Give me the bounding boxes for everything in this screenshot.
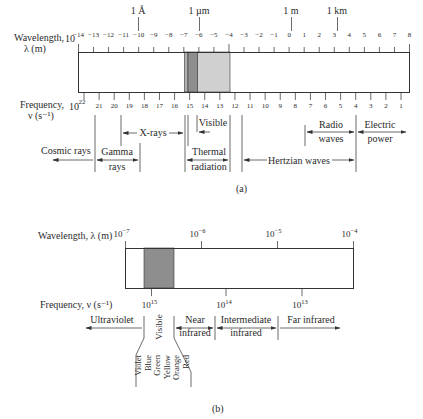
frequency-exponent: 15 <box>186 102 194 110</box>
label-cosmic-rays: Cosmic rays <box>41 145 91 156</box>
b-label-intermediate-1: Intermediate <box>221 314 272 325</box>
label-visible: Visible <box>199 117 228 128</box>
b-label-far-infrared: Far infrared <box>287 314 334 325</box>
wavelength-ticks <box>79 44 410 52</box>
b-wavelength-tick-label: 10−7 <box>114 227 131 239</box>
label-x-rays: X-rays <box>139 127 166 138</box>
b-wavelength-tick-label: 10−6 <box>190 227 207 239</box>
wavelength-axis-label: Wavelength, <box>14 32 64 43</box>
wavelength-exponent: −10 <box>133 31 144 39</box>
frequency-tick-labels: 22212019181716151413121110987654321 <box>79 98 404 110</box>
frequency-exponent: 10 <box>262 102 270 110</box>
infrared-band <box>198 52 231 92</box>
frequency-exponent: 18 <box>141 102 149 110</box>
wavelength-exponent: −3 <box>240 31 248 39</box>
wavelength-exponent: 3 <box>333 31 337 39</box>
b-label-ultraviolet: Ultraviolet <box>90 314 134 325</box>
frequency-exponent: 22 <box>79 98 87 106</box>
label-electric-1: Electric <box>364 119 396 130</box>
caption-a: (a) <box>236 183 247 195</box>
frequency-exponent: 13 <box>216 102 224 110</box>
frequency-exponent: 19 <box>126 102 134 110</box>
label-gamma-2: rays <box>109 161 126 172</box>
landmark-labels: 1 Å 1 µm 1 m 1 km <box>131 5 348 31</box>
b-visible-band <box>144 248 174 288</box>
b-wavelength-label: Wavelength, λ (m) <box>38 230 112 242</box>
frequency-ticks <box>84 93 401 100</box>
wavelength-exponent: −9 <box>150 31 158 39</box>
frequency-exponent: 9 <box>278 102 282 110</box>
label-electric-2: power <box>368 133 394 144</box>
frequency-exponent: 7 <box>309 102 313 110</box>
wavelength-exponent: −11 <box>118 31 129 39</box>
visible-color-orange: Orange <box>171 355 181 380</box>
wavelength-exponent: −6 <box>195 31 203 39</box>
frequency-exponent: 11 <box>247 102 254 110</box>
b-frequency-tick-label: 1013 <box>292 298 308 310</box>
label-radio-1: Radio <box>319 119 343 130</box>
wavelength-exponent: 5 <box>363 31 367 39</box>
frequency-exponent: 8 <box>294 102 298 110</box>
frequency-exponent: 3 <box>369 102 373 110</box>
wavelength-exponent: −5 <box>210 31 218 39</box>
frequency-axis-label: Frequency, <box>20 99 64 110</box>
wavelength-exponent: 1 <box>302 31 306 39</box>
frequency-exponent: 5 <box>339 102 343 110</box>
landmark-angstrom: 1 Å <box>131 5 147 16</box>
visible-color-green: Green <box>152 354 162 376</box>
electromagnetic-spectrum-diagram: Wavelength, λ (m) Frequency, ν (s⁻¹) 1 Å… <box>0 0 423 419</box>
frequency-axis-unit: ν (s⁻¹) <box>28 110 54 122</box>
landmark-meter: 1 m <box>283 5 299 16</box>
label-thermal-2: radiation <box>191 161 227 172</box>
wavelength-exponent: −14 <box>73 31 84 39</box>
wavelength-axis-unit: λ (m) <box>24 43 46 55</box>
visible-color-blue: Blue <box>143 355 153 371</box>
caption-b: (b) <box>212 403 224 415</box>
frequency-exponent: 12 <box>231 102 239 110</box>
b-label-near-1: Near <box>185 314 205 325</box>
frequency-exponent: 1 <box>399 102 403 110</box>
visible-color-list: VioletBlueGreenYellowOrangeRed <box>133 354 191 380</box>
frequency-exponent: 14 <box>201 102 209 110</box>
label-gamma-1: Gamma <box>101 146 133 157</box>
label-hertzian: Hertzian waves <box>268 155 330 166</box>
wavelength-exponent: −8 <box>165 31 173 39</box>
b-frequency-tick-label: 1015 <box>142 298 158 310</box>
b-wavelength-ticks: 10−710−610−510−4 <box>114 227 359 248</box>
visible-band <box>188 52 198 92</box>
b-wavelength-tick-label: 10−5 <box>266 227 282 239</box>
label-thermal-1: Thermal <box>192 146 226 157</box>
b-label-intermediate-2: infrared <box>230 327 262 338</box>
wavelength-exponent: 8 <box>408 31 412 39</box>
part-b: Wavelength, λ (m) 10−710−610−510−4 Frequ… <box>38 227 358 415</box>
spectrum-bar <box>79 53 410 93</box>
frequency-exponent: 6 <box>324 102 328 110</box>
wavelength-exponent: −1 <box>270 31 278 39</box>
wavelength-tick-labels: −14−13−12−11−10−9−8−7−6−5−4−3−2−10123456… <box>73 31 412 39</box>
b-wavelength-tick-label: 10−4 <box>342 227 359 239</box>
frequency-exponent: 21 <box>96 102 104 110</box>
b-frequency-tick-label: 1014 <box>216 298 232 310</box>
frequency-exponent: 4 <box>354 102 358 110</box>
wavelength-exponent: −2 <box>255 31 263 39</box>
landmark-micrometer: 1 µm <box>188 5 209 16</box>
wavelength-exponent: 2 <box>317 31 321 39</box>
visible-color-violet: Violet <box>133 354 143 375</box>
frequency-exponent: 2 <box>384 102 388 110</box>
b-frequency-label: Frequency, ν (s⁻¹) <box>40 299 112 311</box>
wavelength-exponent: 0 <box>287 31 291 39</box>
wavelength-exponent: −13 <box>88 31 99 39</box>
visible-color-yellow: Yellow <box>162 354 172 379</box>
frequency-exponent: 20 <box>111 102 119 110</box>
frequency-base: 10 <box>69 101 79 112</box>
label-radio-2: waves <box>319 133 344 144</box>
visible-color-red: Red <box>181 354 191 368</box>
b-frequency-ticks: 101510141013 <box>142 289 308 310</box>
wavelength-exponent: −7 <box>180 31 188 39</box>
wavelength-exponent: −12 <box>103 31 114 39</box>
b-label-near-2: infrared <box>179 327 211 338</box>
frequency-exponent: 16 <box>171 102 179 110</box>
landmark-kilometer: 1 km <box>327 5 348 16</box>
frequency-exponent: 17 <box>156 102 164 110</box>
b-label-visible: Visible <box>154 314 164 339</box>
